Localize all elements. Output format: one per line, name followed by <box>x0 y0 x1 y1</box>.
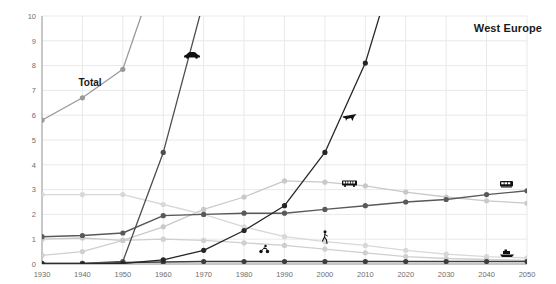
data-point-total <box>80 95 85 100</box>
y-tick-label: 5 <box>32 136 36 145</box>
ship-icon <box>498 248 516 260</box>
data-point-walking <box>39 253 44 258</box>
x-tick-label: 1970 <box>195 270 212 279</box>
y-tick-label: 2 <box>32 210 36 219</box>
walking-icon <box>316 231 334 243</box>
data-point-bus <box>403 189 408 194</box>
data-point-aviation <box>282 203 287 208</box>
data-point-ship <box>282 259 287 264</box>
car-icon <box>183 48 201 60</box>
line-chart-plot: 0123456789101930194019501960197019801990… <box>0 0 556 284</box>
data-point-rail <box>524 188 529 193</box>
data-point-rail <box>241 211 246 216</box>
data-point-motorcycle <box>39 192 44 197</box>
data-point-ship <box>484 259 489 264</box>
y-tick-label: 8 <box>32 61 36 70</box>
data-point-rail <box>322 207 327 212</box>
data-point-ship <box>444 259 449 264</box>
data-point-rail <box>444 197 449 202</box>
data-point-bus <box>241 194 246 199</box>
data-point-motorcycle <box>444 251 449 256</box>
data-point-ship <box>201 259 206 264</box>
data-point-ship <box>322 259 327 264</box>
y-tick-label: 0 <box>32 260 36 269</box>
series-line-total <box>42 0 163 120</box>
x-tick-label: 2010 <box>357 270 374 279</box>
x-tick-label: 2050 <box>519 270 536 279</box>
x-tick-label: 1950 <box>114 270 131 279</box>
train-icon <box>498 179 516 191</box>
data-point-aviation <box>120 261 125 266</box>
data-point-ship <box>524 259 529 264</box>
data-point-ship <box>241 259 246 264</box>
x-tick-label: 2020 <box>397 270 414 279</box>
x-tick-label: 1960 <box>155 270 172 279</box>
data-point-bus <box>363 183 368 188</box>
data-point-motorcycle <box>120 192 125 197</box>
motorcycle-icon <box>255 243 273 255</box>
data-point-walking <box>363 250 368 255</box>
data-point-rail <box>161 213 166 218</box>
data-point-bus <box>524 201 529 206</box>
data-point-aviation <box>39 261 44 266</box>
data-point-walking <box>282 243 287 248</box>
data-point-bus <box>161 224 166 229</box>
series-line-aviation <box>42 0 406 264</box>
y-tick-label: 9 <box>32 37 36 46</box>
data-point-aviation <box>241 228 246 233</box>
data-point-motorcycle <box>161 202 166 207</box>
data-point-rail <box>363 203 368 208</box>
x-tick-label: 2040 <box>478 270 495 279</box>
data-point-walking <box>161 237 166 242</box>
data-point-walking <box>80 249 85 254</box>
series-label-total: Total <box>78 77 101 88</box>
data-point-rail <box>282 211 287 216</box>
bus-icon <box>340 177 358 189</box>
data-point-motorcycle <box>403 248 408 253</box>
y-tick-label: 7 <box>32 86 36 95</box>
data-point-walking <box>403 254 408 259</box>
data-point-bus <box>322 180 327 185</box>
y-tick-label: 6 <box>32 111 36 120</box>
data-point-rail <box>484 192 489 197</box>
data-point-motorcycle <box>363 243 368 248</box>
y-tick-label: 1 <box>32 235 36 244</box>
data-point-walking <box>322 247 327 252</box>
data-point-motorcycle <box>80 192 85 197</box>
plane-icon <box>340 109 358 121</box>
x-tick-label: 2000 <box>317 270 334 279</box>
x-tick-label: 1980 <box>236 270 253 279</box>
y-tick-label: 3 <box>32 185 36 194</box>
data-point-motorcycle <box>282 234 287 239</box>
data-point-walking <box>241 240 246 245</box>
data-point-rail <box>39 234 44 239</box>
data-point-total <box>39 118 44 123</box>
y-tick-label: 4 <box>32 161 36 170</box>
x-tick-label: 1940 <box>74 270 91 279</box>
data-point-bus <box>282 178 287 183</box>
y-tick-label: 10 <box>28 12 36 21</box>
data-point-aviation <box>363 61 368 66</box>
data-point-aviation <box>322 150 327 155</box>
data-point-walking <box>201 238 206 243</box>
chart-container: 0123456789101930194019501960197019801990… <box>0 0 556 284</box>
data-point-rail <box>80 233 85 238</box>
x-tick-label: 1990 <box>276 270 293 279</box>
data-point-aviation <box>161 257 166 262</box>
data-point-bus <box>120 238 125 243</box>
data-point-ship <box>403 259 408 264</box>
data-point-ship <box>363 259 368 264</box>
data-point-aviation <box>201 248 206 253</box>
data-point-rail <box>120 230 125 235</box>
data-point-bus <box>484 198 489 203</box>
data-point-car <box>161 150 166 155</box>
data-point-total <box>120 67 125 72</box>
x-tick-label: 1930 <box>34 270 51 279</box>
data-point-rail <box>201 212 206 217</box>
x-tick-label: 2030 <box>438 270 455 279</box>
data-point-bus <box>201 207 206 212</box>
data-point-aviation <box>80 261 85 266</box>
chart-title: West Europe <box>474 22 542 34</box>
data-point-rail <box>403 199 408 204</box>
